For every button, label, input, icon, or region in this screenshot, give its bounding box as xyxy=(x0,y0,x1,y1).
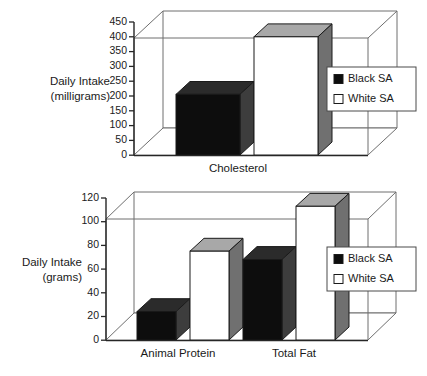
legend-label-black-sa: Black SA xyxy=(348,72,393,84)
y-tick-label-350: 350 xyxy=(109,44,127,56)
y-tick-labels: 450 400 350 300 250 200 150 100 50 0 xyxy=(109,15,127,160)
category-label-animal-protein: Animal Protein xyxy=(141,347,216,359)
cholesterol-chart-svg: 450 400 350 300 250 200 150 100 50 0 Dai… xyxy=(0,0,427,188)
y-tick-label-400: 400 xyxy=(109,30,127,42)
y-axis-title-line2: (milligrams) xyxy=(51,90,111,102)
legend-swatch-black-sa xyxy=(334,75,343,84)
y-axis-title-line1: Daily Intake xyxy=(50,75,110,87)
y-tick-label-300: 300 xyxy=(109,59,127,71)
y-tick-label-450: 450 xyxy=(109,15,127,27)
legend-swatch-black-sa xyxy=(334,255,343,264)
bar-side-face xyxy=(240,82,254,156)
legend-label-white-sa: White SA xyxy=(348,272,395,284)
y-tick-label-80: 80 xyxy=(87,238,99,250)
y-axis-title: Daily Intake (grams) xyxy=(22,256,82,283)
bar-white-sa-animal-protein xyxy=(190,238,243,340)
legend-swatch-white-sa xyxy=(334,275,343,284)
bar-front-face xyxy=(243,260,282,341)
bar-black-sa-cholesterol xyxy=(176,82,254,156)
bar-white-sa-cholesterol xyxy=(254,24,332,155)
y-tick-label-250: 250 xyxy=(109,74,127,86)
bar-front-face xyxy=(190,251,229,340)
category-label-total-fat: Total Fat xyxy=(272,347,317,359)
y-tick-label-20: 20 xyxy=(87,309,99,321)
y-axis-title-line2: (grams) xyxy=(42,271,82,283)
y-tick-label-50: 50 xyxy=(115,133,127,145)
bar-front-face xyxy=(176,94,240,155)
y-axis-title: Daily Intake (milligrams) xyxy=(50,75,110,102)
protein-fat-chart-svg: 120 100 80 60 40 20 0 Daily Intake (gram… xyxy=(0,183,427,376)
y-tick-label-120: 120 xyxy=(81,191,99,203)
depth-edge-top-left xyxy=(106,192,134,219)
cholesterol-chart: 450 400 350 300 250 200 150 100 50 0 Dai… xyxy=(0,0,427,188)
y-tick-label-100: 100 xyxy=(81,214,99,226)
bar-side-face xyxy=(229,238,243,340)
y-tick-label-100: 100 xyxy=(109,118,127,130)
bar-side-face xyxy=(282,247,296,340)
y-tick-label-150: 150 xyxy=(109,104,127,116)
y-tick-label-200: 200 xyxy=(109,89,127,101)
legend-bottom[interactable]: Black SA White SA xyxy=(327,247,416,291)
figure-container: 450 400 350 300 250 200 150 100 50 0 Dai… xyxy=(0,0,427,376)
legend-label-black-sa: Black SA xyxy=(348,252,393,264)
legend-label-white-sa: White SA xyxy=(348,92,395,104)
legend-top[interactable]: Black SA White SA xyxy=(327,67,416,111)
depth-edge-top-left xyxy=(134,11,163,38)
bar-front-face xyxy=(137,312,176,340)
category-label-cholesterol: Cholesterol xyxy=(209,162,267,174)
y-tick-label-60: 60 xyxy=(87,262,99,274)
bar-front-face xyxy=(254,37,318,155)
bar-black-sa-total-fat xyxy=(243,247,296,340)
protein-fat-chart: 120 100 80 60 40 20 0 Daily Intake (gram… xyxy=(0,183,427,376)
legend-swatch-white-sa xyxy=(334,95,343,104)
y-tick-label-0: 0 xyxy=(93,333,99,345)
y-tick-label-0: 0 xyxy=(121,148,127,160)
y-tick-label-40: 40 xyxy=(87,286,99,298)
y-tick-labels: 120 100 80 60 40 20 0 xyxy=(81,191,99,345)
bar-black-sa-animal-protein xyxy=(137,299,190,340)
y-axis-title-line1: Daily Intake xyxy=(22,256,82,268)
